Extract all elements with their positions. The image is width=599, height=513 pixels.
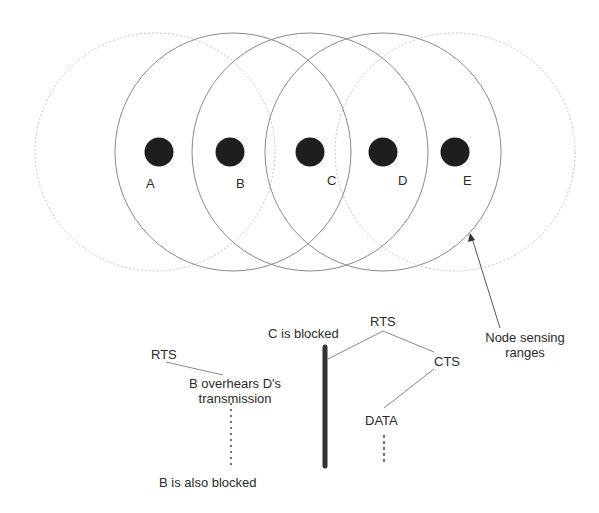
arrowhead-icon [468, 233, 475, 242]
node-label-a: A [146, 176, 155, 191]
b-overhears-line1: B overhears D's [175, 376, 295, 391]
node-label-d: D [398, 173, 407, 188]
rts-label-d: RTS [370, 314, 396, 329]
data-label: DATA [365, 413, 398, 428]
b-blocked-label: B is also blocked [159, 475, 257, 490]
node-d [369, 138, 398, 167]
node-label-e: E [463, 173, 472, 188]
diagram-canvas [0, 0, 599, 513]
sensing-ranges-line2: ranges [475, 345, 575, 360]
sensing-ranges-line1: Node sensing [475, 330, 575, 345]
node-label-b: B [236, 176, 245, 191]
sensing-arrow-line [472, 238, 500, 328]
c-blocked-label: C is blocked [268, 326, 339, 341]
cts-to-data-line [384, 369, 434, 408]
rts-label-b: RTS [151, 347, 177, 362]
rts-to-cts-line [383, 331, 434, 352]
node-b [216, 138, 245, 167]
rts-b-to-overhears-line [166, 362, 223, 375]
node-label-c: C [327, 173, 336, 188]
sensing-ranges-label: Node sensing ranges [475, 330, 575, 360]
b-overhears-label: B overhears D's transmission [175, 376, 295, 406]
b-overhears-line2: transmission [175, 391, 295, 406]
node-a [145, 138, 174, 167]
cts-label: CTS [434, 354, 460, 369]
node-e [441, 138, 470, 167]
node-c [296, 138, 325, 167]
